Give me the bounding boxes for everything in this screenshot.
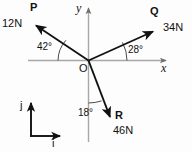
angle-label-r: 18° xyxy=(78,108,93,118)
vector-q-arrow xyxy=(89,32,154,61)
vector-p-magnitude: 12N xyxy=(2,18,22,29)
unit-vector-i-label: i xyxy=(52,138,54,149)
vector-r-name: R xyxy=(115,110,123,121)
vector-q-name: Q xyxy=(150,6,159,17)
angle-arc-r xyxy=(89,101,102,103)
x-axis-label: x xyxy=(161,62,166,74)
origin-label: O xyxy=(79,63,88,74)
angle-label-p: 42° xyxy=(37,42,52,52)
y-axis-label: y xyxy=(76,2,81,14)
vector-p-name: P xyxy=(30,2,37,13)
angle-label-q: 28° xyxy=(128,45,143,55)
unit-vector-indicator xyxy=(30,103,60,137)
force-vector-diagram: P 12N Q 34N R 46N 42° 28° 18° O x y j i xyxy=(0,0,192,152)
vector-r-magnitude: 46N xyxy=(113,125,133,136)
unit-vector-j-label: j xyxy=(20,100,22,111)
vector-q-magnitude: 34N xyxy=(163,22,183,33)
